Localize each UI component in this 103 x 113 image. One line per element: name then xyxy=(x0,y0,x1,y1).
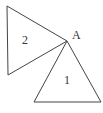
triangle-1 xyxy=(34,41,101,102)
diagram-canvas: 2 1 A xyxy=(0,0,103,113)
vertex-a-label: A xyxy=(72,28,81,42)
triangle-2 xyxy=(7,6,67,75)
triangle-2-label: 2 xyxy=(22,33,28,47)
triangle-1-label: 1 xyxy=(64,73,70,87)
